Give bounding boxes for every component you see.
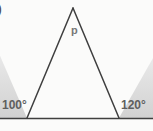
item-marker-label: ): [0, 1, 2, 16]
left-exterior-angle-label: 100°: [2, 99, 27, 111]
right-exterior-angle-label: 120°: [121, 99, 146, 111]
apex-angle-label: p: [71, 25, 78, 36]
geometry-figure: ) p 100° 120°: [0, 0, 153, 131]
